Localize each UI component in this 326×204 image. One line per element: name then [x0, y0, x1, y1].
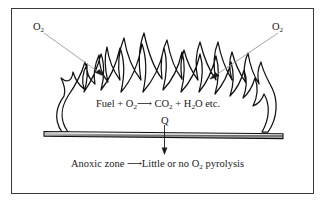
label-oxygen-right-sub: 2 — [280, 26, 284, 34]
reaction-product-1-sub: 2 — [169, 103, 173, 111]
label-oxygen-right-text: O — [272, 21, 280, 32]
reaction-arrow-icon: ⟶ — [137, 98, 152, 109]
anoxic-zone-text: Anoxic zone — [71, 158, 124, 169]
leader-line-left — [44, 33, 104, 76]
heat-arrow-down — [162, 125, 168, 155]
label-oxygen-left: O2 — [33, 22, 44, 34]
label-heat-q: Q — [161, 116, 169, 127]
label-oxygen-right: O2 — [272, 22, 283, 34]
anoxic-arrow-icon: ⟶ — [127, 158, 142, 169]
anoxic-result-pre: Little or no O — [142, 158, 199, 169]
label-oxygen-left-sub: 2 — [41, 26, 45, 34]
heat-arrow-head — [162, 148, 168, 156]
anoxic-zone-caption: Anoxic zone ⟶Little or no O2 pyrolysis — [71, 159, 244, 171]
reaction-equation: Fuel + O2⟶ CO2 + H2O etc. — [96, 99, 220, 111]
reaction-plus: + H — [175, 98, 191, 109]
anoxic-result-post: pyrolysis — [203, 158, 244, 169]
reaction-product-1: CO — [154, 98, 169, 109]
reaction-product-2-tail: O etc. — [195, 98, 220, 109]
oxygen-leader-left — [44, 33, 104, 76]
reaction-reactants: Fuel + O — [96, 98, 133, 109]
label-oxygen-left-text: O — [33, 21, 41, 32]
substrate-slab — [44, 132, 283, 139]
figure-container: O2 O2 Fuel + O2⟶ CO2 + H2O etc. Q Anoxic… — [0, 0, 326, 204]
